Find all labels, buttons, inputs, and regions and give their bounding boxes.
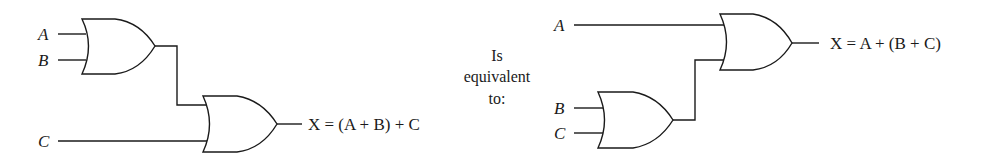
- left-wire-ab: [155, 46, 207, 105]
- left-input-label-b: B: [38, 51, 49, 70]
- left-input-label-c: C: [38, 132, 50, 151]
- right-wire-bc: [673, 60, 724, 120]
- right-input-label-a: A: [553, 16, 565, 35]
- right-input-label-b: B: [554, 99, 565, 118]
- right-or-gate-1-icon: [598, 92, 673, 148]
- right-circuit: A B C X = A + (B + C): [553, 14, 941, 148]
- caption-line-2: equivalent: [464, 68, 531, 86]
- right-or-gate-2-icon: [720, 14, 792, 70]
- caption-line-1: Is: [491, 47, 503, 64]
- right-output-expression: X = A + (B + C): [830, 34, 941, 53]
- left-input-label-a: A: [37, 25, 49, 44]
- left-circuit: A B C X = (A + B) + C: [37, 19, 420, 152]
- left-or-gate-2-icon: [203, 96, 277, 152]
- left-or-gate-1-icon: [82, 19, 155, 74]
- equivalence-caption: Is equivalent to:: [464, 47, 531, 107]
- or-associativity-diagram: A B C X = (A + B) + C Is equivalent to: …: [0, 0, 993, 165]
- caption-line-3: to:: [489, 90, 506, 107]
- left-output-expression: X = (A + B) + C: [308, 115, 420, 134]
- right-input-label-c: C: [554, 124, 566, 143]
